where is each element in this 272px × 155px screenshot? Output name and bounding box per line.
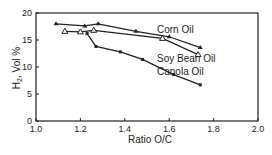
label-canola-oil: Canola Oil xyxy=(157,66,204,77)
y-tick-label: 5 xyxy=(27,89,32,99)
data-point xyxy=(96,21,101,25)
data-point xyxy=(199,83,202,86)
x-axis-label: Ratio O/C xyxy=(128,134,172,145)
label-corn-oil: Corn Oil xyxy=(157,24,194,35)
data-point xyxy=(91,27,97,32)
label-soy-bean-oil: Soy Bean Oil xyxy=(157,53,215,64)
x-tick-label: 1.8 xyxy=(207,124,220,134)
y-tick-label: 0 xyxy=(27,116,32,126)
data-point xyxy=(119,50,122,53)
y-axis-label: H2, Vol % xyxy=(11,47,23,89)
x-tick-label: 1.4 xyxy=(119,124,132,134)
plot-frame xyxy=(36,13,258,121)
x-tick-label: 1.6 xyxy=(163,124,176,134)
y-tick-label: 10 xyxy=(22,62,32,72)
chart: 1.01.21.41.61.82.005101520 Corn Oil Soy … xyxy=(0,0,272,155)
x-tick-label: 2.0 xyxy=(252,124,265,134)
chart-svg: 1.01.21.41.61.82.005101520 Corn Oil Soy … xyxy=(0,0,272,155)
data-point xyxy=(86,32,89,35)
axis-ticks: 1.01.21.41.61.82.005101520 xyxy=(22,8,264,134)
y-tick-label: 20 xyxy=(22,8,32,18)
svg-text:H2, Vol %: H2, Vol % xyxy=(11,47,23,89)
x-tick-label: 1.2 xyxy=(74,124,87,134)
data-point xyxy=(94,45,97,48)
y-tick-label: 15 xyxy=(22,35,32,45)
data-point xyxy=(141,58,144,61)
